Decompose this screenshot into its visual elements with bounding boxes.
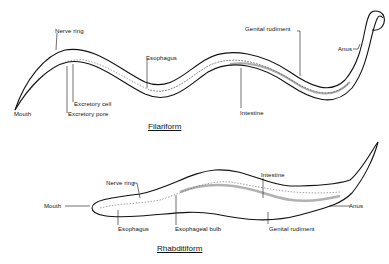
nematode-larvae-diagram: Nerve ring Esophagus Genital rudiment An… [0, 0, 389, 264]
worm-drawings [0, 0, 389, 264]
filariform-worm [15, 11, 384, 110]
label-excretory-pore: Excretory pore [68, 111, 108, 118]
label-mouth: Mouth [14, 111, 31, 118]
label-esophagus-rhab: Esophagus [118, 226, 149, 233]
label-anus-rhab: Anus [349, 203, 363, 210]
label-intestine-rhab: Intestine [261, 172, 285, 179]
label-genital-rudiment-rhab: Genital rudiment [269, 226, 315, 233]
label-esophagus: Esophagus [146, 55, 177, 62]
rhabditiform-worm [92, 142, 378, 220]
label-anus: Anus [338, 46, 352, 53]
filariform-title: Filariform [148, 122, 181, 131]
rhabditiform-title: Rhabditiform [157, 244, 202, 253]
label-genital-rudiment: Genital rudiment [245, 26, 291, 33]
label-intestine: Intestine [240, 110, 264, 117]
label-nerve-ring-rhab: Nerve ring [106, 180, 135, 187]
label-nerve-ring: Nerve ring [55, 28, 84, 35]
label-mouth-rhab: Mouth [44, 203, 61, 210]
label-esophageal-bulb: Esophageal bulb [175, 226, 221, 233]
label-excretory-cell: Excretory cell [74, 101, 111, 108]
